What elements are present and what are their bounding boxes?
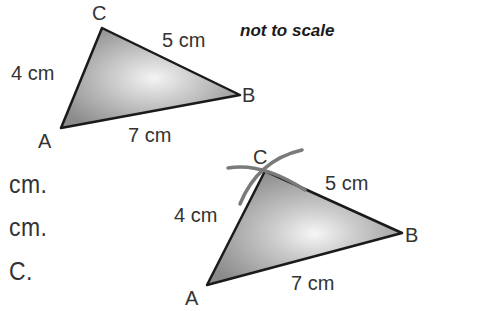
not-to-scale-note: not to scale [240, 21, 334, 40]
triangle-1: C B A 4 cm 5 cm 7 cm [11, 2, 255, 152]
vertex-a-label-2: A [185, 287, 199, 309]
side-ab-label-2: 7 cm [291, 272, 334, 294]
side-ac-label: 4 cm [11, 62, 54, 84]
side-cb-label: 5 cm [162, 29, 205, 51]
text-fragment-1: cm. [9, 170, 47, 199]
text-fragment-3: C. [9, 257, 33, 286]
construction-diagram: C B A 4 cm 5 cm 7 cm not to scale C B A … [0, 0, 479, 311]
triangle-1-shape [61, 28, 240, 128]
vertex-c-label: C [92, 2, 106, 24]
triangle-2: C B A 4 cm 5 cm 7 cm [174, 146, 418, 309]
side-cb-label-2: 5 cm [325, 172, 368, 194]
vertex-a-label: A [38, 130, 52, 152]
side-ac-label-2: 4 cm [174, 204, 217, 226]
side-ab-label: 7 cm [128, 124, 171, 146]
text-fragment-2: cm. [9, 213, 47, 242]
vertex-c-label-2: C [253, 146, 267, 168]
vertex-b-label: B [242, 84, 255, 106]
vertex-b-label-2: B [405, 224, 418, 246]
